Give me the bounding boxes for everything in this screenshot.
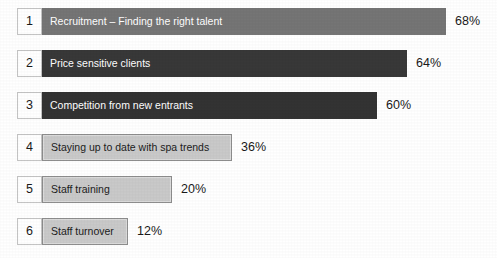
- bar-label: Price sensitive clients: [50, 58, 150, 69]
- rank-label: 3: [26, 99, 33, 112]
- rank-label: 2: [26, 57, 33, 70]
- rank-badge: 1: [17, 8, 42, 35]
- chart-row: 6 Staff turnover 12%: [17, 218, 162, 245]
- bar-segment: Staying up to date with spa trends: [42, 134, 232, 161]
- bar-label: Competition from new entrants: [50, 100, 193, 111]
- value-label-wrap: 20%: [172, 176, 206, 203]
- percent-label: 60%: [386, 99, 411, 112]
- rank-badge: 6: [17, 218, 42, 245]
- rank-badge: 4: [17, 134, 42, 161]
- chart-row: 1 Recruitment – Finding the right talent…: [17, 8, 480, 35]
- bar-label: Staying up to date with spa trends: [51, 142, 209, 153]
- percent-label: 36%: [241, 141, 266, 154]
- bar-segment: Competition from new entrants: [42, 92, 377, 119]
- chart-row: 5 Staff training 20%: [17, 176, 206, 203]
- rank-badge: 5: [17, 176, 42, 203]
- percent-label: 20%: [181, 183, 206, 196]
- bar-label: Recruitment – Finding the right talent: [50, 16, 222, 27]
- percent-label: 12%: [137, 225, 162, 238]
- bar-label: Staff training: [51, 184, 110, 195]
- value-label-wrap: 68%: [446, 8, 480, 35]
- rank-label: 6: [26, 225, 33, 238]
- chart-row: 3 Competition from new entrants 60%: [17, 92, 411, 119]
- percent-label: 68%: [455, 15, 480, 28]
- value-label-wrap: 12%: [128, 218, 162, 245]
- value-label-wrap: 36%: [232, 134, 266, 161]
- rank-badge: 3: [17, 92, 42, 119]
- chart-row: 4 Staying up to date with spa trends 36%: [17, 134, 266, 161]
- rank-badge: 2: [17, 50, 42, 77]
- chart-row: 2 Price sensitive clients 64%: [17, 50, 441, 77]
- value-label-wrap: 60%: [377, 92, 411, 119]
- rank-label: 5: [26, 183, 33, 196]
- value-label-wrap: 64%: [407, 50, 441, 77]
- percent-label: 64%: [416, 57, 441, 70]
- rank-label: 4: [26, 141, 33, 154]
- bar-segment: Price sensitive clients: [42, 50, 407, 77]
- bar-segment: Staff training: [42, 176, 172, 203]
- bar-segment: Staff turnover: [42, 218, 128, 245]
- rank-label: 1: [26, 15, 33, 28]
- horizontal-bar-chart: 1 Recruitment – Finding the right talent…: [0, 0, 497, 258]
- bar-label: Staff turnover: [51, 226, 114, 237]
- bar-segment: Recruitment – Finding the right talent: [42, 8, 446, 35]
